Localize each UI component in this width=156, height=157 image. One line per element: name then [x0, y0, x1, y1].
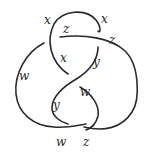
label: z: [108, 33, 116, 47]
label: y: [92, 55, 100, 69]
label: z: [82, 135, 90, 149]
label: w: [80, 85, 91, 99]
label: w: [56, 135, 67, 149]
label: w: [19, 69, 30, 83]
label: z: [62, 22, 70, 36]
label: x: [44, 13, 51, 27]
label: x: [60, 51, 67, 65]
label: x: [101, 12, 108, 26]
arc-y-upper: [52, 47, 98, 124]
arc-w-outer: [16, 43, 86, 127]
label: y: [52, 98, 60, 112]
knot-diagram: x x z z x y w w y w z: [0, 0, 156, 157]
